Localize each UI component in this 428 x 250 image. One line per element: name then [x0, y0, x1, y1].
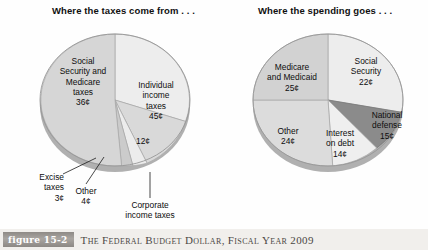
figure-container: Where the taxes come from . . . Where th…	[0, 0, 428, 250]
taxes-pie-svg	[29, 22, 201, 174]
taxes-pie-chart	[29, 22, 201, 174]
callout-excise-taxes: Excise taxes 3¢	[10, 172, 64, 203]
right-panel-title: Where the spending goes . . .	[258, 5, 392, 16]
figure-caption-bar: figure 15-2 The Federal Budget Dollar, F…	[0, 229, 428, 250]
slice-other-spending	[253, 100, 333, 166]
spending-pie-svg	[242, 22, 414, 174]
callout-corporate-income-taxes: Corporate income taxes	[104, 200, 196, 221]
figure-caption-text: The Federal Budget Dollar, Fiscal Year 2…	[81, 234, 314, 246]
slice-medicare-medicaid	[253, 34, 328, 100]
slice-ss-medicare-taxes	[41, 34, 122, 166]
left-panel-title: Where the taxes come from . . .	[52, 5, 195, 16]
spending-pie-chart	[242, 22, 414, 174]
callout-other-taxes: Other 4¢	[64, 186, 108, 207]
figure-number-tag: figure 15-2	[3, 232, 74, 247]
slice-social-security	[328, 34, 403, 112]
